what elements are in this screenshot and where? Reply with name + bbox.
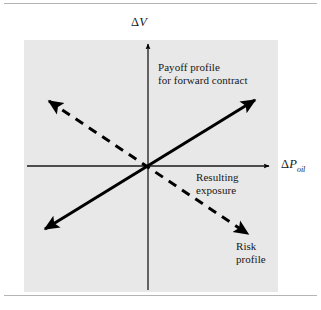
risk-profile-line1: Risk xyxy=(236,240,256,252)
payoff-profile-line1: Payoff profile xyxy=(158,61,220,73)
risk-profile-line2: profile xyxy=(236,253,266,266)
x-axis-delta-symbol: Δ xyxy=(281,157,289,171)
resulting-exposure-annotation: Resulting exposure xyxy=(196,171,239,197)
y-axis-delta-symbol: Δ xyxy=(131,15,139,29)
plot-canvas xyxy=(0,0,321,310)
y-axis-variable: V xyxy=(139,15,147,29)
resulting-exposure-line2: exposure xyxy=(196,184,239,197)
x-axis-label: ΔPoil xyxy=(281,157,305,174)
x-axis-variable: P xyxy=(289,157,297,171)
figure-root: ΔV ΔPoil Payoff profile for forward cont… xyxy=(0,0,321,310)
resulting-exposure-line1: Resulting xyxy=(196,171,239,183)
payoff-profile-line2: for forward contract xyxy=(158,74,248,87)
risk-profile-annotation: Risk profile xyxy=(236,240,266,266)
x-axis-subscript: oil xyxy=(297,165,305,174)
payoff-profile-annotation: Payoff profile for forward contract xyxy=(158,61,248,87)
y-axis-label: ΔV xyxy=(131,15,147,30)
